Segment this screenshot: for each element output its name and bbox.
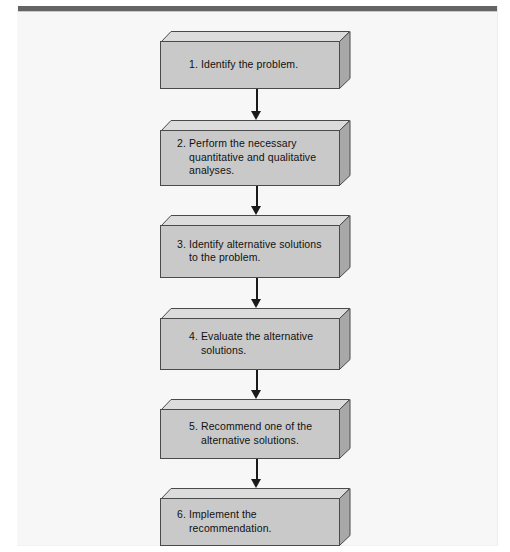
- box-right-face: [339, 31, 350, 89]
- box-3d: 2. Perform the necessary quantitative an…: [160, 120, 350, 186]
- box-right-face: [339, 120, 350, 186]
- box-right-face: [339, 399, 350, 459]
- box-front-face: 5. Recommend one of the alternative solu…: [160, 409, 340, 459]
- connector-arrow-1-to-2: [251, 89, 262, 120]
- box-front-face: 1. Identify the problem.: [160, 41, 340, 89]
- flow-node-1-label: 1. Identify the problem.: [161, 58, 310, 73]
- box-3d: 4. Evaluate the alternative solutions.: [160, 308, 350, 370]
- flow-node-3[interactable]: 3. Identify alternative solutions to the…: [160, 215, 350, 278]
- arrow-stem: [256, 459, 258, 480]
- box-3d: 3. Identify alternative solutions to the…: [160, 215, 350, 278]
- flow-node-5-label: 5. Recommend one of the alternative solu…: [161, 420, 339, 448]
- arrow-stem: [256, 370, 258, 391]
- connector-arrow-4-to-5: [251, 370, 262, 399]
- box-right-face: [339, 488, 350, 546]
- box-front-face: 4. Evaluate the alternative solutions.: [160, 318, 340, 370]
- arrow-stem: [256, 278, 258, 300]
- flow-node-3-label: 3. Identify alternative solutions to the…: [161, 238, 339, 266]
- box-front-face: 6. Implement the recommendation.: [160, 498, 340, 546]
- arrow-head-icon: [251, 206, 261, 215]
- arrow-head-icon: [251, 111, 261, 120]
- flow-node-4-label: 4. Evaluate the alternative solutions.: [161, 330, 339, 358]
- arrow-head-icon: [251, 299, 261, 308]
- figure-page: 1. Identify the problem.: [0, 0, 510, 552]
- connector-arrow-3-to-4: [251, 278, 262, 308]
- box-right-face: [339, 215, 350, 278]
- arrow-head-icon: [251, 390, 261, 399]
- box-front-face: 2. Perform the necessary quantitative an…: [160, 130, 340, 186]
- flow-node-6-label: 6. Implement the recommendation.: [161, 508, 339, 536]
- arrow-stem: [256, 89, 258, 112]
- box-front-face: 3. Identify alternative solutions to the…: [160, 225, 340, 278]
- flowchart: 1. Identify the problem.: [0, 0, 510, 552]
- arrow-stem: [256, 186, 258, 207]
- flow-node-2-label: 2. Perform the necessary quantitative an…: [161, 137, 339, 179]
- flow-node-1[interactable]: 1. Identify the problem.: [160, 31, 350, 89]
- connector-arrow-2-to-3: [251, 186, 262, 215]
- connector-arrow-5-to-6: [251, 459, 262, 488]
- box-3d: 1. Identify the problem.: [160, 31, 350, 89]
- box-right-face: [339, 308, 350, 370]
- flow-node-2[interactable]: 2. Perform the necessary quantitative an…: [160, 120, 350, 186]
- box-3d: 6. Implement the recommendation.: [160, 488, 350, 546]
- arrow-head-icon: [251, 479, 261, 488]
- flow-node-6[interactable]: 6. Implement the recommendation.: [160, 488, 350, 546]
- box-3d: 5. Recommend one of the alternative solu…: [160, 399, 350, 459]
- flow-node-4[interactable]: 4. Evaluate the alternative solutions.: [160, 308, 350, 370]
- flow-node-5[interactable]: 5. Recommend one of the alternative solu…: [160, 399, 350, 459]
